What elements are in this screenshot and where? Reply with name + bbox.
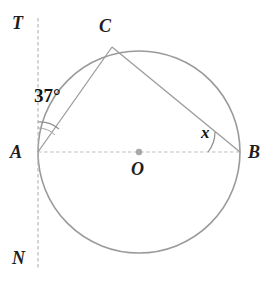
point-label-C: C bbox=[99, 17, 111, 35]
point-label-B: B bbox=[248, 143, 260, 161]
geometry-canvas bbox=[0, 0, 272, 281]
geometry-diagram: T N A B C O 37° x bbox=[0, 0, 272, 281]
center-point-dot bbox=[136, 149, 142, 155]
angle-label-x: x bbox=[201, 124, 210, 141]
segment-CB bbox=[112, 47, 240, 152]
point-label-T: T bbox=[12, 14, 23, 32]
point-label-O: O bbox=[131, 160, 144, 178]
point-label-A: A bbox=[10, 143, 22, 161]
angle-label-37-degrees: 37° bbox=[34, 86, 61, 105]
point-label-N: N bbox=[12, 249, 25, 267]
